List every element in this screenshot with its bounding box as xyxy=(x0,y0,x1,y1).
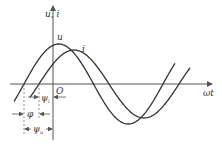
psi-u-subscript: u xyxy=(40,129,43,135)
i-curve-label: i xyxy=(82,44,85,54)
x-axis-label: ωt xyxy=(203,88,214,98)
phase-diagram: u, i ωt O u i ψ i φ ψ u xyxy=(0,0,222,146)
diagram-canvas: u, i ωt O u i ψ i φ ψ u xyxy=(0,0,222,146)
phi-label: φ xyxy=(27,109,34,119)
u-curve-label: u xyxy=(57,32,63,42)
origin-label: O xyxy=(56,86,64,96)
psi-i-subscript: i xyxy=(48,98,50,104)
y-axis-label: u, i xyxy=(45,9,60,19)
